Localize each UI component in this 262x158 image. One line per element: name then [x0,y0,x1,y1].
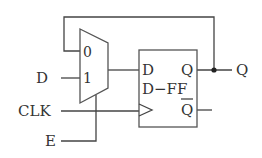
junction-dot [211,67,216,72]
input-label-e: E [45,132,56,150]
mux-input-1-label: 1 [83,70,92,86]
ff-q-label: Q [181,61,193,79]
ff-qbar-label: Q [181,101,193,119]
enable-wire [61,95,96,141]
input-label-clk: CLK [18,102,51,120]
multiplexer [80,29,108,103]
circuit-diagram: D CLK E 0 1 D Q D−FF Q Q [0,0,262,158]
output-label-q: Q [236,61,248,79]
input-label-d: D [36,69,48,87]
ff-name-label: D−FF [142,80,187,98]
ff-d-label: D [142,61,154,79]
mux-input-0-label: 0 [83,44,92,60]
